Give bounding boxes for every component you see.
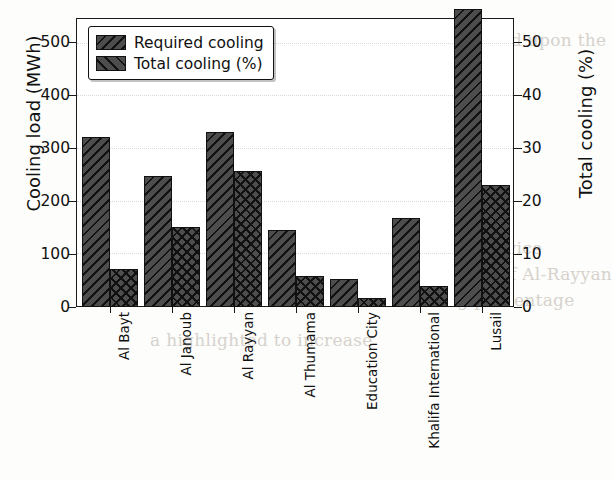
- axis-right-tick-label: 40: [522, 86, 562, 104]
- bar-total-cooling: [420, 286, 448, 307]
- axis-right-tick-label: 50: [522, 33, 562, 51]
- axis-right-tick-label: 10: [522, 245, 562, 263]
- tickmark-right: [514, 42, 522, 43]
- xtickmark: [420, 307, 421, 313]
- tickmark-right: [514, 95, 522, 96]
- legend-item-total-cooling: Total cooling (%): [96, 53, 264, 74]
- legend-item-required-cooling: Required cooling: [96, 32, 264, 53]
- bar-total-cooling: [358, 298, 386, 307]
- xtick-label-education-city: Education City: [364, 312, 380, 410]
- bar-required-cooling: [268, 230, 296, 307]
- tickmark-right: [514, 201, 522, 202]
- bar-required-cooling: [82, 137, 110, 307]
- legend: Required cooling Total cooling (%): [88, 26, 274, 80]
- bar-group: [392, 18, 448, 307]
- bar-total-cooling: [172, 227, 200, 307]
- bar-required-cooling: [392, 218, 420, 307]
- xtick-label-al-thumama: Al Thumama: [302, 312, 318, 397]
- xtick-label-al-bayt: Al Bayt: [116, 312, 132, 360]
- bar-required-cooling: [454, 9, 482, 308]
- xtick-label-khalifa-international: Khalifa International: [426, 312, 442, 449]
- bar-group: [268, 18, 324, 307]
- tickmark-right: [514, 307, 522, 308]
- xtick-label-lusail: Lusail: [488, 312, 504, 351]
- xtickmark: [110, 307, 111, 313]
- tickmark-right: [514, 148, 522, 149]
- xtickmark: [482, 307, 483, 313]
- axis-right-tick-label: 0: [522, 298, 562, 316]
- xtick-label-al-rayyan: Al Rayyan: [240, 312, 256, 379]
- bar-group: [330, 18, 386, 307]
- bar-group: [454, 18, 510, 307]
- legend-label: Required cooling: [134, 34, 264, 52]
- axis-left-tick-label: 0: [10, 298, 70, 316]
- bar-required-cooling: [144, 176, 172, 307]
- axis-right-title: Total cooling (%): [575, 0, 596, 249]
- bar-required-cooling: [330, 279, 358, 307]
- axis-left-title: Cooling load (MWh): [23, 0, 44, 249]
- bar-total-cooling: [296, 276, 324, 308]
- legend-label: Total cooling (%): [134, 55, 263, 73]
- hatch-diagonal-swatch: [96, 35, 126, 50]
- hatch-cross-swatch: [96, 56, 126, 71]
- xtick-label-al-janoub: Al Janoub: [178, 312, 194, 375]
- bar-required-cooling: [206, 132, 234, 307]
- bar-total-cooling: [234, 171, 262, 307]
- tickmark-right: [514, 254, 522, 255]
- xtickmark: [358, 307, 359, 313]
- bar-total-cooling: [482, 185, 510, 307]
- xtickmark: [234, 307, 235, 313]
- axis-right-tick-label: 20: [522, 192, 562, 210]
- bar-total-cooling: [110, 269, 138, 307]
- axis-right-tick-label: 30: [522, 139, 562, 157]
- xtickmark: [296, 307, 297, 313]
- xtickmark: [172, 307, 173, 313]
